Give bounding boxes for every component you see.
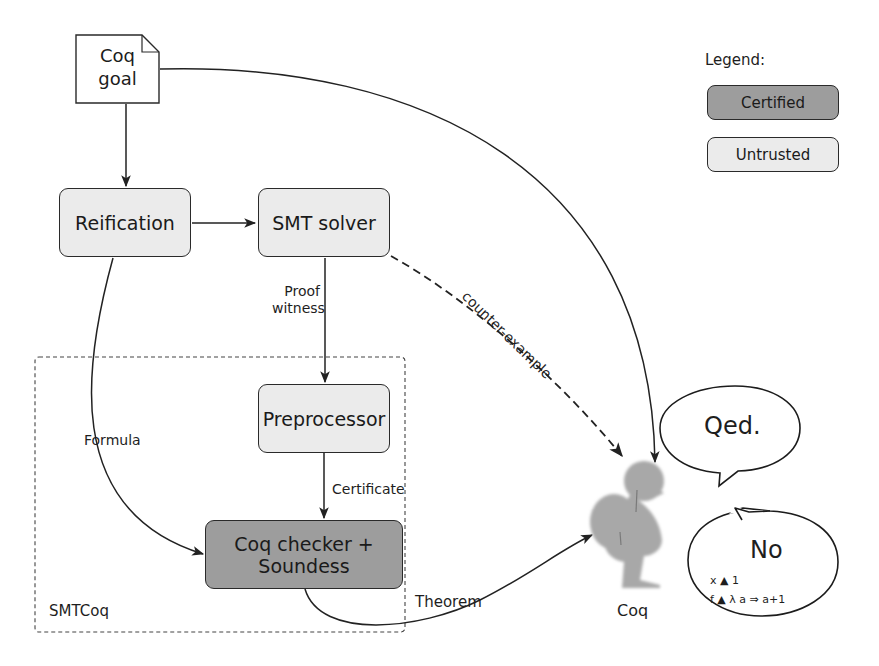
qed-text: Qed.: [704, 412, 761, 441]
coq-goal: Coq goal: [76, 45, 159, 90]
legend-certified-label: Certified: [741, 94, 805, 112]
edge-label-proof-witness: Proof witness: [272, 283, 320, 317]
legend-certified: Certified: [707, 85, 839, 120]
coq-checker-node: Coq checker + Soundess: [205, 520, 403, 589]
preprocessor-label: Preprocessor: [263, 408, 386, 430]
coq-checker-label: Coq checker + Soundess: [206, 533, 402, 577]
no-title: No: [750, 536, 783, 565]
coq-goal-line2: goal: [76, 68, 159, 91]
coq-label: Coq: [617, 601, 648, 620]
witness-label: witness: [272, 300, 320, 317]
legend-untrusted-label: Untrusted: [736, 146, 811, 164]
smt-solver-label: SMT solver: [272, 212, 376, 234]
edge-label-certificate: Certificate: [332, 481, 405, 498]
legend-title: Legend:: [705, 51, 765, 69]
coq-goal-line1: Coq: [76, 45, 159, 68]
edge-label-theorem: Theorem: [415, 593, 482, 611]
legend-untrusted: Untrusted: [707, 137, 839, 172]
edge-label-formula: Formula: [84, 432, 141, 449]
preprocessor-node: Preprocessor: [258, 384, 390, 453]
smt-solver-node: SMT solver: [258, 188, 390, 257]
proof-label: Proof: [272, 283, 320, 300]
smtcoq-label: SMTCoq: [49, 602, 109, 620]
reification-label: Reification: [75, 212, 175, 234]
no-line1: x ▲ 1: [710, 574, 739, 587]
no-line2: f ▲ λ a ⇒ a+1: [710, 593, 785, 606]
reification-node: Reification: [59, 188, 191, 257]
